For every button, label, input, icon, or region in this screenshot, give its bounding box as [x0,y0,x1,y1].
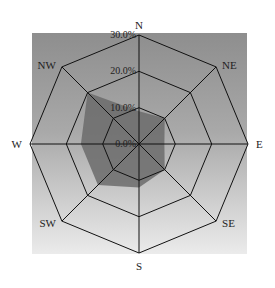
radial-tick-label: 0.0% [115,138,136,149]
radial-tick-label: 30.0% [110,29,136,40]
radial-tick-label: 20.0% [110,65,136,76]
direction-label-se: SE [222,217,235,229]
direction-label-s: S [136,260,142,272]
direction-label-w: W [12,138,23,150]
direction-label-ne: NE [222,59,237,71]
direction-label-nw: NW [38,59,57,71]
direction-label-e: E [256,138,263,150]
direction-label-n: N [135,19,143,31]
wind-rose-chart: 0.0%10.0%20.0%30.0% NNEESESSWWNW [0,0,275,288]
direction-label-sw: SW [39,217,56,229]
grid-layer [30,35,248,253]
wind-rose-svg: 0.0%10.0%20.0%30.0% NNEESESSWWNW [0,0,275,288]
radial-tick-label: 10.0% [110,102,136,113]
